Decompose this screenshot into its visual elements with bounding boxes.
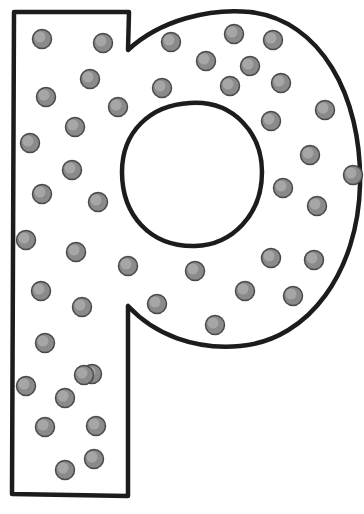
polka-dot-highlight xyxy=(69,245,80,256)
polka-dot-highlight xyxy=(75,300,86,311)
polka-dot-highlight xyxy=(89,419,100,430)
polka-dot-highlight xyxy=(276,181,287,192)
polka-dot-highlight xyxy=(318,103,329,114)
polka-dot-highlight xyxy=(286,289,297,300)
polka-dot-highlight xyxy=(58,391,69,402)
polka-dot-highlight xyxy=(303,148,314,159)
polka-dot-highlight xyxy=(346,168,357,179)
polka-dot-highlight xyxy=(35,187,46,198)
polka-dot-highlight xyxy=(188,264,199,275)
polka-dot-highlight xyxy=(77,368,88,379)
polka-dot-highlight xyxy=(150,297,161,308)
polka-dot-highlight xyxy=(65,163,76,174)
polka-dot-highlight xyxy=(164,35,175,46)
polka-dot-highlight xyxy=(208,318,219,329)
polka-dot-highlight xyxy=(38,420,49,431)
polka-dot-highlight xyxy=(199,54,210,65)
polka-dot-highlight xyxy=(223,79,234,90)
polka-dot-highlight xyxy=(266,33,277,44)
polka-dot-highlight xyxy=(68,120,79,131)
polka-dot-highlight xyxy=(23,136,34,147)
letter-p-artwork xyxy=(0,0,364,514)
polka-dot-highlight xyxy=(35,32,46,43)
polka-dot-highlight xyxy=(227,27,238,38)
polka-dot-highlight xyxy=(238,284,249,295)
polka-dot-highlight xyxy=(91,195,102,206)
polka-dot-highlight xyxy=(38,336,49,347)
polka-dot-highlight xyxy=(19,233,30,244)
polka-dot-highlight xyxy=(96,36,107,47)
polka-dot-highlight xyxy=(155,81,166,92)
polka-dot-highlight xyxy=(83,72,94,83)
polka-dot-highlight xyxy=(243,59,254,70)
dots-group xyxy=(17,25,363,480)
polka-dot-highlight xyxy=(19,379,30,390)
polka-dot-highlight xyxy=(111,100,122,111)
polka-dot-highlight xyxy=(264,251,275,262)
polka-dot-highlight xyxy=(87,452,98,463)
polka-dot-highlight xyxy=(121,259,132,270)
polka-dot-highlight xyxy=(307,253,318,264)
polka-dot-highlight xyxy=(310,199,321,210)
polka-dot-highlight xyxy=(58,463,69,474)
polka-dot-highlight xyxy=(264,114,275,125)
polka-dot-highlight xyxy=(274,76,285,87)
letter-p-counter xyxy=(122,103,262,246)
polka-dot-highlight xyxy=(39,90,50,101)
polka-dot-highlight xyxy=(34,284,45,295)
